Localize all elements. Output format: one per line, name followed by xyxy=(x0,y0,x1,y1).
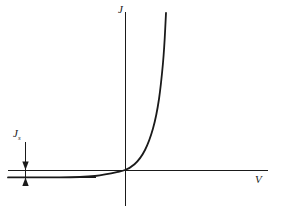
saturation-current-subscript: s xyxy=(18,134,21,142)
x-axis-label: V xyxy=(255,174,262,185)
plot-canvas xyxy=(0,0,281,216)
diode-curve xyxy=(8,13,166,177)
diode-iv-characteristic-figure: J V Js xyxy=(0,0,281,216)
js-arrowhead-down-icon xyxy=(22,162,28,171)
y-axis-label: J xyxy=(118,4,123,15)
saturation-current-label: Js xyxy=(13,128,21,142)
js-arrowhead-up-icon xyxy=(22,178,28,187)
